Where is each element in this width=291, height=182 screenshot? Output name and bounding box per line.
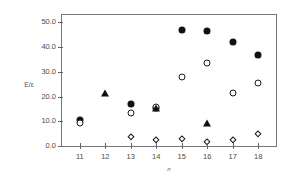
chart-figure: E/ε 0.010.020.030.040.050.01112131415161… <box>0 0 291 182</box>
y-tick-mark <box>58 72 63 73</box>
data-point-filled-triangle <box>152 105 160 112</box>
x-tick-mark <box>131 143 132 149</box>
y-tick-label: 10.0 <box>41 117 56 125</box>
x-tick-label: 13 <box>127 153 135 161</box>
data-point-open-circle <box>76 120 83 127</box>
data-point-open-circle <box>204 60 211 67</box>
data-point-filled-circle <box>178 27 185 34</box>
data-point-filled-circle <box>127 100 134 107</box>
data-point-filled-triangle <box>203 120 211 127</box>
y-tick-label: 0.0 <box>46 142 56 150</box>
data-point-open-circle <box>127 110 134 117</box>
x-tick-label: 11 <box>76 153 84 161</box>
x-tick-label: 18 <box>254 153 262 161</box>
x-tick-mark <box>156 143 157 149</box>
x-tick-label: 14 <box>152 153 160 161</box>
data-point-open-diamond <box>127 133 134 140</box>
x-tick-mark <box>80 143 81 149</box>
x-tick-label: 16 <box>203 153 211 161</box>
y-tick-mark <box>58 97 63 98</box>
x-tick-mark <box>258 143 259 149</box>
x-tick-mark <box>105 143 106 149</box>
data-point-open-diamond <box>254 130 261 137</box>
x-tick-label: 17 <box>229 153 237 161</box>
y-tick-mark <box>58 121 63 122</box>
data-point-filled-circle <box>229 39 236 46</box>
data-point-open-circle <box>255 80 262 87</box>
y-tick-label: 40.0 <box>41 43 56 51</box>
data-point-filled-circle <box>204 28 211 35</box>
plot-surface <box>62 15 276 146</box>
data-point-filled-circle <box>255 51 262 58</box>
data-point-open-circle <box>178 74 185 81</box>
y-tick-label: 20.0 <box>41 93 56 101</box>
y-tick-label: 30.0 <box>41 68 56 76</box>
x-axis-label: n <box>61 166 277 172</box>
x-tick-label: 15 <box>178 153 186 161</box>
x-tick-mark <box>233 143 234 149</box>
x-tick-label: 12 <box>101 153 109 161</box>
data-point-open-diamond <box>178 135 185 142</box>
y-tick-label: 50.0 <box>41 18 56 26</box>
plot-area: 0.010.020.030.040.050.01112131415161718 <box>61 14 277 147</box>
x-tick-mark <box>182 143 183 149</box>
y-axis-label: E/ε <box>14 80 44 89</box>
data-point-filled-triangle <box>101 90 109 97</box>
x-tick-mark <box>207 143 208 149</box>
y-tick-mark <box>58 146 63 147</box>
data-point-open-circle <box>229 89 236 96</box>
y-tick-mark <box>58 47 63 48</box>
y-tick-mark <box>58 22 63 23</box>
